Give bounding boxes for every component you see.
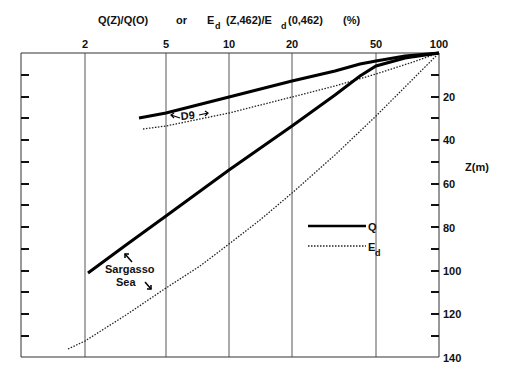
legend: Q E d [308,221,381,258]
series [68,53,439,349]
y-tick-labels: 20 40 60 80 100 120 140 Z(m) [443,91,489,364]
right-ticks [431,75,439,336]
x-tick-labels: 2 5 10 20 50 100 [82,38,448,50]
title-or: or [176,14,188,26]
series-sargasso-q [88,53,439,273]
y-tick-60: 60 [443,178,455,190]
y-tick-40: 40 [443,134,455,146]
title-e1: E [207,14,214,26]
annotation-sargasso: Sargasso Sea [105,254,155,289]
title-d1: d [215,21,221,31]
title-tail: (0,462) [288,14,323,26]
y-axis-title: Z(m) [465,161,489,173]
left-ticks [21,75,29,336]
title-mid: (Z,462)/E [226,14,272,26]
y-tick-20: 20 [443,91,455,103]
x-tick-100: 100 [430,38,448,50]
arrow-up-left-icon [125,254,132,262]
title-unit: (%) [343,14,360,26]
y-tick-120: 120 [443,308,461,320]
series-sargasso-ed [68,53,439,349]
x-tick-10: 10 [223,38,235,50]
x-tick-5: 5 [163,38,169,50]
y-tick-100: 100 [443,265,461,277]
chart-title: Q(Z)/Q(O) or E d (Z,462)/E d (0,462) (%) [98,14,360,31]
x-tick-2: 2 [82,38,88,50]
d9-label: D9 [180,109,195,122]
sea-label: Sea [116,276,136,288]
series-d9-q [139,53,439,118]
sargasso-label: Sargasso [105,263,155,275]
arrow-down-right-icon [145,282,151,289]
y-tick-140: 140 [443,352,461,364]
title-q-ratio: Q(Z)/Q(O) [98,14,148,26]
x-tick-20: 20 [286,38,298,50]
y-tick-80: 80 [443,222,455,234]
title-d2: d [281,21,287,31]
legend-d-sub: d [375,248,381,258]
chart: Q(Z)/Q(O) or E d (Z,462)/E d (0,462) (%)… [0,0,509,378]
legend-q-label: Q [368,221,377,233]
x-tick-50: 50 [370,38,382,50]
